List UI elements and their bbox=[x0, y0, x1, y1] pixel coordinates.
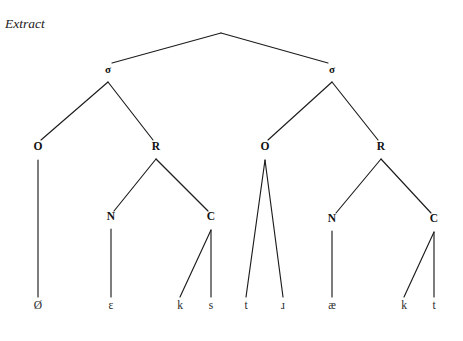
terminal-open-e: ɛ bbox=[109, 299, 114, 311]
node-nucleus1-label: N bbox=[107, 210, 116, 222]
node-rhyme2-label: R bbox=[377, 140, 386, 152]
node-sigma2-label: σ bbox=[329, 63, 335, 75]
terminal-k: k bbox=[177, 299, 183, 311]
node-coda2-label: C bbox=[430, 212, 438, 224]
tree-canvas: σσORORNCNC Øɛkstɹækt bbox=[0, 0, 463, 341]
tree-node-group: σσORORNCNC bbox=[34, 63, 439, 224]
node-coda1-label: C bbox=[207, 210, 215, 222]
tree-edge-sigma2-to-rhyme2 bbox=[332, 82, 378, 140]
node-rhyme1-label: R bbox=[152, 140, 161, 152]
tree-edge-group bbox=[38, 33, 434, 297]
tree-edge-rhyme2-to-coda2 bbox=[381, 159, 431, 213]
tree-edge-coda1-to-t3 bbox=[180, 230, 211, 297]
tree-edge-onset2-to-t6 bbox=[265, 160, 283, 297]
node-nucleus2-label: N bbox=[328, 212, 337, 224]
node-onset1-label: O bbox=[34, 140, 43, 152]
terminal-null-onset: Ø bbox=[34, 299, 42, 311]
tree-edge-coda2-to-t8 bbox=[404, 232, 434, 297]
tree-edge-rhyme2-to-nucleus2 bbox=[336, 159, 381, 213]
tree-edge-sigma1-to-onset1 bbox=[41, 82, 108, 140]
tree-edge-rhyme1-to-nucleus1 bbox=[114, 159, 156, 211]
syllable-tree-figure: σσORORNCNC Øɛkstɹækt bbox=[0, 0, 463, 341]
node-sigma1-label: σ bbox=[105, 63, 111, 75]
tree-terminal-group: Øɛkstɹækt bbox=[34, 299, 437, 311]
tree-edge-onset2-to-t5 bbox=[246, 160, 265, 297]
terminal-s: s bbox=[209, 299, 214, 311]
tree-edge-root-to-sigma2 bbox=[221, 33, 328, 63]
tree-edge-sigma2-to-onset2 bbox=[268, 82, 332, 140]
terminal-t: t bbox=[244, 299, 248, 311]
tree-edge-root-to-sigma1 bbox=[112, 33, 221, 63]
terminal-t: t bbox=[432, 299, 436, 311]
terminal-turned-r: ɹ bbox=[281, 299, 285, 311]
terminal-ash: æ bbox=[328, 299, 336, 311]
tree-edge-rhyme1-to-coda1 bbox=[156, 159, 208, 211]
node-onset2-label: O bbox=[261, 140, 270, 152]
terminal-k: k bbox=[401, 299, 407, 311]
tree-edge-sigma1-to-rhyme1 bbox=[108, 82, 153, 140]
